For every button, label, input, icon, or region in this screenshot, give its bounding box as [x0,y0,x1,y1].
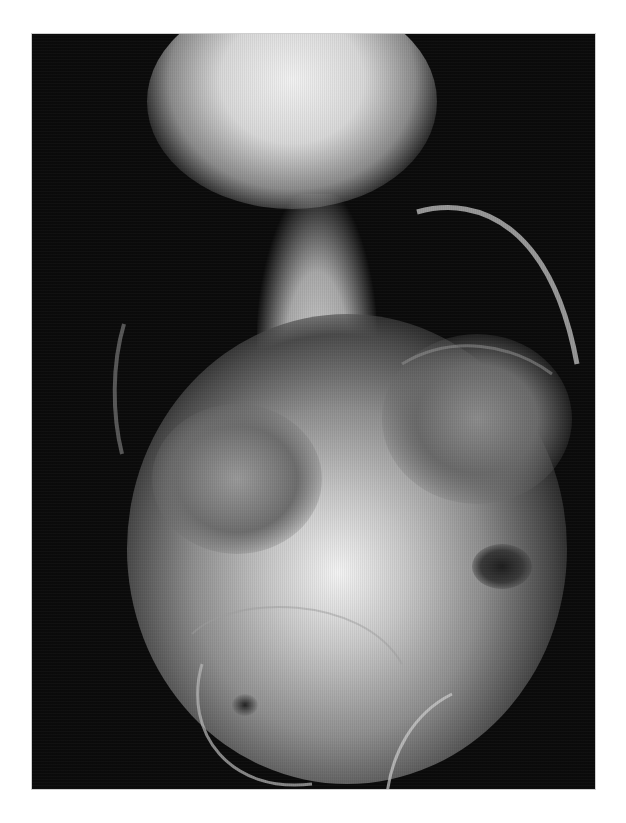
radiograph-image [32,34,595,789]
bone-outlines [32,34,595,789]
